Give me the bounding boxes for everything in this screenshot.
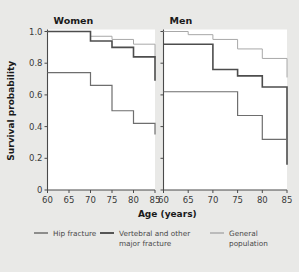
legend-label-line2: population — [229, 239, 268, 248]
x-tick-label: 75 — [232, 195, 243, 205]
x-tick-label: 65 — [183, 195, 194, 205]
x-tick-label: 80 — [257, 195, 268, 205]
y-tick-label: 1.0 — [29, 27, 43, 37]
x-tick-label: 85 — [282, 195, 293, 205]
x-tick-label: 65 — [64, 195, 75, 205]
y-tick-label: 0.8 — [29, 58, 43, 68]
plot-area-background — [48, 30, 156, 191]
legend-label: Hip fracture — [53, 229, 97, 238]
legend-label-line2: major fracture — [119, 239, 172, 248]
survival-probability-figure: Women1.00.80.60.40.20606570758085Men6065… — [0, 0, 299, 272]
legend-label: Vertebral and other — [119, 229, 190, 238]
y-tick-label: 0.6 — [29, 90, 43, 100]
x-tick-label: 75 — [107, 195, 118, 205]
x-tick-label: 60 — [158, 195, 169, 205]
x-tick-label: 80 — [128, 195, 139, 205]
panel-title: Men — [170, 15, 193, 26]
x-tick-label: 70 — [85, 195, 96, 205]
x-tick-label: 60 — [42, 195, 53, 205]
panel-men: Men606570758085 — [158, 15, 292, 206]
y-tick-label: 0.2 — [29, 153, 43, 163]
x-axis-label: Age (years) — [138, 209, 197, 219]
y-tick-label: 0 — [37, 185, 42, 195]
x-tick-label: 70 — [207, 195, 218, 205]
y-axis-label: Survival probability — [6, 61, 16, 161]
panel-women: Women1.00.80.60.40.20606570758085 — [29, 15, 160, 206]
y-tick-label: 0.4 — [29, 122, 43, 132]
legend-label: General — [229, 229, 258, 238]
plot-area-background — [164, 30, 288, 191]
panel-title: Women — [54, 15, 94, 26]
chart-canvas: Women1.00.80.60.40.20606570758085Men6065… — [0, 0, 299, 272]
